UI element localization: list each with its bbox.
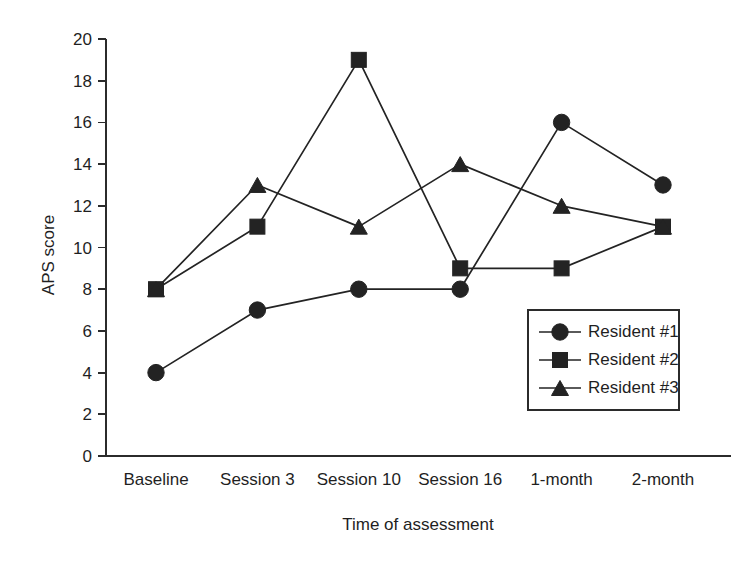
series-line-square [156,60,663,289]
y-tick-label: 14 [73,155,92,174]
legend-item-1[interactable]: Resident #1 [539,322,679,341]
chart-figure: APS score Time of assessment 02468101214… [0,0,755,562]
y-tick-label: 10 [73,239,92,258]
y-tick-label: 0 [83,447,92,466]
data-point-triangle-3 [452,157,469,172]
series-markers-square [149,52,671,296]
data-point-triangle-4 [553,198,570,213]
y-tick-label: 8 [83,280,92,299]
data-point-square-4 [554,261,569,276]
data-point-triangle-2 [350,219,367,234]
y-tick-label: 6 [83,322,92,341]
legend-item-2[interactable]: Resident #2 [539,350,679,369]
legend-marker-circle [552,324,568,340]
y-axis-title: APS score [39,215,58,295]
chart-legend: Resident #1Resident #2Resident #3 [528,310,679,410]
x-axis-category-labels: BaselineSession 3Session 10Session 161-m… [123,470,694,489]
legend-marker-square [553,353,568,368]
data-point-square-2 [351,52,366,67]
legend-label: Resident #1 [588,322,679,341]
y-tick-label: 4 [83,364,92,383]
y-axis-ticks: 02468101214161820 [73,30,106,466]
legend-label: Resident #3 [588,378,679,397]
legend-item-3[interactable]: Resident #3 [539,378,679,397]
data-point-circle-5 [655,177,671,193]
x-category-label: 1-month [530,470,592,489]
x-category-label: Baseline [123,470,188,489]
data-point-circle-1 [249,302,265,318]
y-tick-label: 18 [73,72,92,91]
y-tick-label: 16 [73,113,92,132]
data-point-circle-4 [553,114,569,130]
series-line-triangle [156,164,663,289]
x-category-label: 2-month [632,470,694,489]
data-point-circle-2 [351,281,367,297]
line-chart: APS score Time of assessment 02468101214… [0,0,755,562]
x-axis-title: Time of assessment [342,515,494,534]
data-point-square-1 [250,219,265,234]
data-point-square-3 [453,261,468,276]
x-category-label: Session 16 [418,470,502,489]
y-tick-label: 2 [83,405,92,424]
data-point-triangle-1 [249,177,266,192]
series-markers-triangle [148,157,672,297]
x-category-label: Session 10 [317,470,401,489]
legend-label: Resident #2 [588,350,679,369]
data-point-circle-0 [148,364,164,380]
y-tick-label: 20 [73,30,92,49]
data-point-circle-3 [452,281,468,297]
x-category-label: Session 3 [220,470,295,489]
y-tick-label: 12 [73,197,92,216]
